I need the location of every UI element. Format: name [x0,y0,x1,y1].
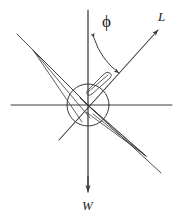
bank-angle-arc [94,38,119,73]
wing-fan-left-line-4 [33,50,82,122]
diagram-canvas [0,0,181,221]
lift-vector-label: L [158,10,165,23]
wing-leading-edge-left [17,34,96,113]
wing-fan-left-line-3 [33,50,90,118]
bank-angle-label: ϕ [102,13,111,30]
wing-fan-right-line-3 [86,112,146,156]
weight-vector-label: W [82,199,93,212]
force-diagram-figure: L ϕ W [0,0,181,221]
wing-leading-edge-right [80,98,161,173]
